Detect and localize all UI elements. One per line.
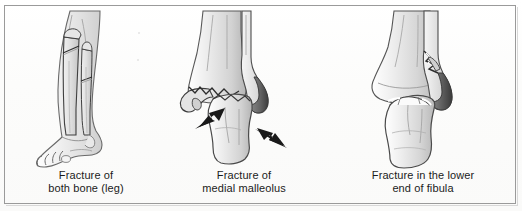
displacement-arrow-right bbox=[255, 128, 287, 148]
illustration-lower-leg-both-bone-fracture bbox=[6, 9, 166, 171]
panel-fracture-both-bone: Fracture of both bone (leg) bbox=[6, 7, 166, 202]
panel-fracture-lower-fibula: Fracture in the lower end of fibula bbox=[330, 7, 516, 202]
caption-line-1: Fracture of bbox=[160, 169, 328, 182]
caption-line-2: both bone (leg) bbox=[6, 182, 166, 195]
panel-caption: Fracture of both bone (leg) bbox=[6, 169, 166, 194]
caption-line-1: Fracture of bbox=[6, 169, 166, 182]
panel-caption: Fracture of medial malleolus bbox=[160, 169, 328, 194]
talus-calcaneus-body bbox=[385, 95, 435, 168]
illustration-ankle-medial-malleolus-fracture bbox=[160, 9, 328, 171]
caption-line-2: medial malleolus bbox=[160, 182, 328, 195]
tibia-head bbox=[64, 29, 81, 39]
fibula-head bbox=[82, 42, 92, 51]
fracture-figure: Fracture of both bone (leg) bbox=[0, 0, 522, 211]
big-toe bbox=[62, 156, 71, 163]
caption-line-2: end of fibula bbox=[330, 182, 516, 195]
panel-caption: Fracture in the lower end of fibula bbox=[330, 169, 516, 194]
caption-line-1: Fracture in the lower bbox=[330, 169, 516, 182]
talus-calcaneus-body bbox=[208, 94, 252, 164]
illustration-ankle-lower-fibula-fracture bbox=[330, 9, 516, 171]
panel-fracture-medial-malleolus: Fracture of medial malleolus bbox=[160, 7, 328, 202]
